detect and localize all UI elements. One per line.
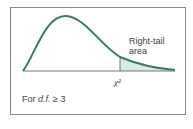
right-tail-label-line2: area bbox=[129, 46, 165, 56]
chi-square-curve-plot bbox=[0, 0, 193, 129]
right-tail-label-line1: Right-tail bbox=[129, 36, 165, 46]
degrees-of-freedom-note: For d.f. ≥ 3 bbox=[22, 94, 65, 104]
df-symbol: d.f. bbox=[38, 94, 51, 104]
df-condition: ≥ 3 bbox=[51, 94, 66, 104]
right-tail-label: Right-tail area bbox=[129, 36, 165, 56]
df-prefix: For bbox=[22, 94, 38, 104]
chi-square-critical-label: χ² bbox=[114, 77, 121, 87]
